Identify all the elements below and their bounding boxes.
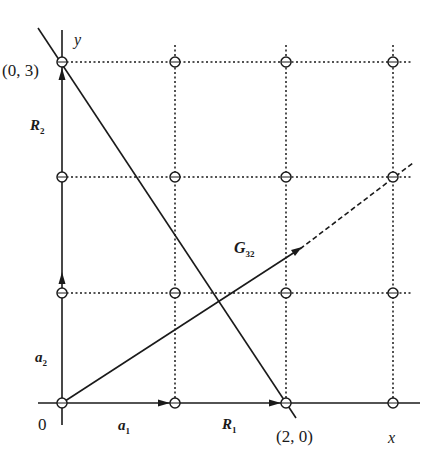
dotted-grid [62,45,412,403]
arrow-R2-icon [59,68,66,80]
arrow-a2-icon [59,272,66,284]
g32-vector-solid [62,250,298,403]
G32-label: G32 [234,240,255,259]
origin-label: 0 [38,416,47,433]
lattice-point-marks [58,62,397,403]
arrowheads [59,68,282,407]
axes [38,30,420,425]
arrow-R1-icon [269,400,281,407]
plane-line [38,28,296,418]
x-axis-label: x [388,430,395,446]
point-0-3-label: (0, 3) [2,62,39,79]
R1-label: R1 [222,417,237,435]
R2-label: R2 [30,118,45,136]
y-axis-label: y [74,32,81,48]
lattice-points [57,57,398,408]
lattice-diagram [0,0,435,457]
point-2-0-label: (2, 0) [276,428,313,445]
a1-label: a1 [118,418,130,436]
arrow-a1-icon [158,400,170,407]
a2-label: a2 [35,350,47,368]
